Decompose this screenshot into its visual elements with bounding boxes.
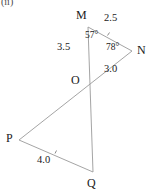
length-label-MO: 3.5 [57,42,70,53]
angle-label-M: 57° [85,31,98,41]
tick-MN [108,33,110,36]
vertex-label-O: O [71,74,80,86]
tick-PQ [55,151,57,154]
length-label-ON: 3.0 [104,64,117,75]
angle-label-N: 78° [106,43,119,53]
vertex-label-M: M [76,9,87,21]
vertex-label-Q: Q [87,177,96,189]
vertex-label-N: N [137,44,146,56]
vertex-label-P: P [6,132,13,144]
length-label-PQ: 4.0 [37,155,50,166]
figure-canvas [0,0,151,191]
segment-MQ [88,27,93,172]
geometry-figure: (ii) M N O P Q 2.5 3.5 3.0 4.0 57° 78° [0,0,151,191]
length-label-MN: 2.5 [104,13,117,24]
segment-PQ [19,140,93,172]
